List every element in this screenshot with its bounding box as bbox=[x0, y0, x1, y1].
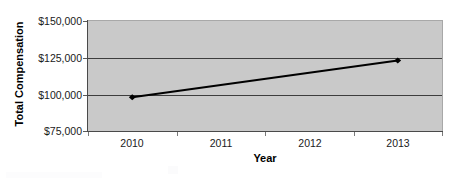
y-tick-label-125000: $125,000 bbox=[26, 53, 82, 64]
plot-area bbox=[88, 21, 442, 131]
x-tick-label-2012: 2012 bbox=[280, 137, 340, 149]
y-tick-label-100000: $100,000 bbox=[26, 90, 82, 101]
plot-border-right bbox=[442, 20, 443, 132]
x-tick-label-2013: 2013 bbox=[368, 137, 428, 149]
x-tick-label-2010: 2010 bbox=[102, 137, 162, 149]
x-tickmark-1 bbox=[177, 132, 178, 136]
y-tick-label-75000: $75,000 bbox=[26, 126, 82, 137]
x-tickmark-2 bbox=[265, 132, 266, 136]
y-axis-title: Total Compensation bbox=[11, 14, 27, 134]
plot-border-top bbox=[88, 20, 443, 21]
x-axis-title: Year bbox=[88, 152, 442, 165]
scan-artifact-secondary bbox=[168, 166, 178, 174]
x-tickmark-3 bbox=[354, 132, 355, 136]
x-tickmark-start bbox=[88, 132, 89, 136]
x-tick-label-2011: 2011 bbox=[191, 137, 251, 149]
y-axis-tick-labels: $150,000 $125,000 $100,000 $75,000 bbox=[26, 0, 82, 183]
scan-artifact bbox=[6, 172, 102, 178]
x-tickmark-end bbox=[442, 132, 443, 136]
gridline-100000 bbox=[88, 95, 442, 96]
y-tick-label-150000: $150,000 bbox=[26, 16, 82, 27]
gridline-125000 bbox=[88, 58, 442, 59]
y-axis-line bbox=[87, 20, 88, 132]
chart-figure: Total Compensation $150,000 $125,000 $10… bbox=[0, 0, 451, 183]
